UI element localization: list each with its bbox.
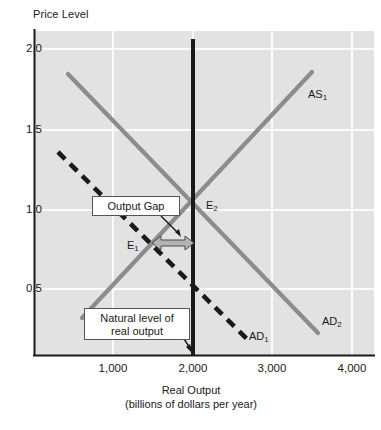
y-axis-title: Price Level bbox=[33, 8, 89, 20]
output-gap-callout: Output Gap bbox=[92, 196, 180, 216]
as1-curve-label: AS1 bbox=[308, 88, 327, 102]
ad1-label-subscript: 1 bbox=[264, 335, 268, 344]
y-tick-label-2-0: 2.0 bbox=[12, 42, 42, 54]
natural-level-callout-line1: Natural level of bbox=[85, 312, 189, 325]
ad2-curve-label: AD2 bbox=[322, 315, 342, 329]
natural-level-callout: Natural level of real output bbox=[84, 308, 190, 340]
e2-label-subscript: 2 bbox=[213, 204, 217, 213]
x-tick-label-1000: 1,000 bbox=[83, 362, 143, 374]
x-tick-label-3000: 3,000 bbox=[242, 362, 302, 374]
ad2-label-text: AD bbox=[322, 315, 337, 327]
ad1-curve-label: AD1 bbox=[249, 330, 269, 344]
equilibrium-point-e1-label: E1 bbox=[127, 239, 139, 253]
x-tick-label-2000: 2,000 bbox=[163, 362, 223, 374]
x-axis-title: Real Output bbox=[121, 384, 261, 396]
output-gap-callout-text: Output Gap bbox=[108, 200, 165, 212]
y-tick-label-0-5: 0.5 bbox=[12, 282, 42, 294]
e1-label-subscript: 1 bbox=[134, 244, 138, 253]
y-tick-label-1-0: 1.0 bbox=[12, 203, 42, 215]
x-axis-subtitle: (billions of dollars per year) bbox=[101, 398, 281, 410]
plot-background bbox=[34, 31, 374, 355]
natural-level-callout-line2: real output bbox=[85, 325, 189, 338]
as1-label-text: AS bbox=[308, 88, 323, 100]
equilibrium-point-e2-label: E2 bbox=[206, 199, 218, 213]
y-tick-label-1-5: 1.5 bbox=[12, 123, 42, 135]
ad2-label-subscript: 2 bbox=[337, 320, 341, 329]
ad1-label-text: AD bbox=[249, 330, 264, 342]
x-tick-label-4000: 4,000 bbox=[322, 362, 381, 374]
chart-figure: Price Level 2.0 1.5 1.0 0.5 1,000 2,000 … bbox=[0, 0, 381, 430]
as1-label-subscript: 1 bbox=[323, 93, 327, 102]
